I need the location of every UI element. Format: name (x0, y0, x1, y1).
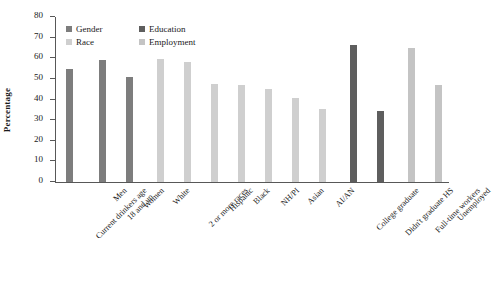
bar (377, 111, 384, 182)
y-tick-mark (50, 99, 55, 100)
y-tick-mark (50, 140, 55, 141)
y-tick: 60 (50, 57, 55, 58)
y-tick-mark (50, 181, 55, 182)
legend-swatch-icon (139, 26, 145, 32)
bar (265, 89, 272, 182)
x-tick-label-line: NH/PI (279, 186, 301, 208)
bar (66, 69, 73, 182)
x-tick-label: Black (252, 186, 272, 206)
y-tick-label: 60 (34, 51, 43, 61)
y-tick-label: 30 (34, 113, 43, 123)
bar (211, 84, 218, 182)
y-tick: 80 (50, 16, 55, 17)
legend-item: Gender (66, 24, 133, 34)
legend-label: Gender (76, 24, 103, 34)
legend-item: Employment (139, 37, 226, 47)
y-tick-mark (50, 57, 55, 58)
y-tick-mark (50, 78, 55, 79)
legend-item: Education (139, 24, 226, 34)
y-tick-mark (50, 37, 55, 38)
bar (319, 109, 326, 182)
y-tick-label: 50 (34, 72, 43, 82)
y-tick-label: 40 (34, 93, 43, 103)
y-tick: 20 (50, 140, 55, 141)
y-tick: 70 (50, 37, 55, 38)
x-axis-line (55, 182, 449, 183)
chart-legend: GenderEducationRaceEmployment (66, 24, 226, 47)
legend-swatch-icon (66, 26, 72, 32)
bar (99, 60, 106, 182)
y-tick-mark (50, 16, 55, 17)
bar (157, 59, 164, 182)
legend-label: Education (149, 24, 186, 34)
y-tick-mark (50, 160, 55, 161)
x-tick-label: White (171, 186, 192, 207)
bar (435, 85, 442, 182)
y-tick: 40 (50, 99, 55, 100)
legend-swatch-icon (139, 39, 145, 45)
y-tick: 30 (50, 119, 55, 120)
legend-item: Race (66, 37, 133, 47)
legend-swatch-icon (66, 39, 72, 45)
y-tick: 50 (50, 78, 55, 79)
bar (126, 77, 133, 182)
y-axis-title: Percentage (2, 60, 12, 160)
x-tick-label: NH/PI (279, 186, 301, 208)
x-tick-label: Asian (306, 186, 326, 206)
y-tick-label: 80 (34, 10, 43, 20)
bar (184, 62, 191, 182)
bar (408, 48, 415, 182)
y-tick-label: 20 (34, 134, 43, 144)
y-tick: 10 (50, 160, 55, 161)
y-tick-label: 70 (34, 31, 43, 41)
y-tick-label: 0 (39, 175, 44, 185)
y-tick-label: 10 (34, 154, 43, 164)
bar (292, 98, 299, 182)
x-tick-label-line: AI/AN (334, 186, 357, 209)
x-tick-label-line: Asian (306, 186, 326, 206)
y-tick-mark (50, 119, 55, 120)
bar (350, 45, 357, 182)
legend-label: Race (76, 37, 94, 47)
bar (238, 85, 245, 182)
legend-label: Employment (149, 37, 196, 47)
x-tick-label: AI/AN (334, 186, 357, 209)
x-tick-label-line: Black (252, 186, 272, 206)
y-tick: 0 (50, 181, 55, 182)
x-tick-label-line: White (171, 186, 192, 207)
